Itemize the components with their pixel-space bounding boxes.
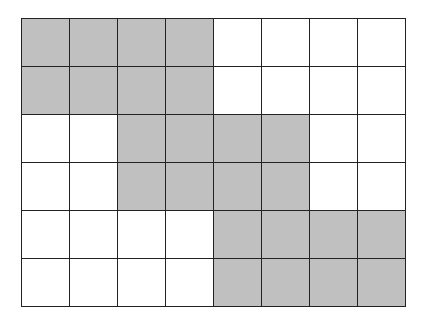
grid-cell-shaded [262, 259, 310, 307]
grid-cell-empty [358, 163, 406, 211]
grid-cell-shaded [358, 259, 406, 307]
grid-cell-empty [262, 19, 310, 67]
grid-cell-shaded [70, 19, 118, 67]
grid-cell-shaded [214, 115, 262, 163]
grid-cell-shaded [358, 211, 406, 259]
grid-cell-shaded [166, 163, 214, 211]
grid-cell-shaded [118, 19, 166, 67]
grid-cell-shaded [166, 67, 214, 115]
grid-cell-shaded [166, 115, 214, 163]
grid-cell-empty [358, 115, 406, 163]
grid-cell-empty [310, 19, 358, 67]
grid-cell-empty [262, 67, 310, 115]
grid-cell-empty [358, 19, 406, 67]
grid-cell-shaded [118, 163, 166, 211]
grid-cell-shaded [22, 19, 70, 67]
grid-cell-empty [118, 259, 166, 307]
grid-cell-empty [70, 211, 118, 259]
grid-cell-empty [166, 211, 214, 259]
grid-cell-empty [70, 259, 118, 307]
grid-cell-empty [70, 163, 118, 211]
grid-cell-empty [214, 19, 262, 67]
grid-cell-shaded [22, 67, 70, 115]
grid-cell-empty [70, 115, 118, 163]
grid-cell-shaded [262, 163, 310, 211]
grid-cell-shaded [118, 115, 166, 163]
grid-cell-empty [310, 67, 358, 115]
grid-cell-empty [310, 163, 358, 211]
grid-cell-empty [118, 211, 166, 259]
grid-cell-empty [310, 115, 358, 163]
grid-cell-empty [358, 67, 406, 115]
grid-cell-shaded [214, 259, 262, 307]
grid-cell-empty [22, 211, 70, 259]
grid-cell-empty [22, 115, 70, 163]
grid-cell-shaded [214, 163, 262, 211]
grid-cell-shaded [310, 259, 358, 307]
grid-cell-shaded [166, 19, 214, 67]
grid-cell-empty [214, 67, 262, 115]
grid-cell-empty [22, 259, 70, 307]
grid-cell-empty [22, 163, 70, 211]
grid-cell-shaded [214, 211, 262, 259]
grid-cell-shaded [262, 211, 310, 259]
shaded-grid-diagram [21, 18, 406, 307]
grid-cell-shaded [262, 115, 310, 163]
grid-cell-empty [166, 259, 214, 307]
grid-cell-shaded [70, 67, 118, 115]
grid-cell-shaded [310, 211, 358, 259]
grid-cell-shaded [118, 67, 166, 115]
